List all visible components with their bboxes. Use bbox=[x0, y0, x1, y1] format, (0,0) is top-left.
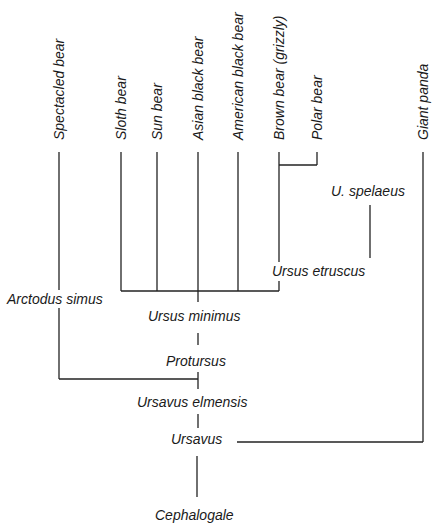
label-spectacled-bear: Spectacled bear bbox=[51, 39, 67, 140]
label-cephalogale: Cephalogale bbox=[155, 507, 234, 523]
label-giant-panda: Giant panda bbox=[415, 64, 431, 140]
label-protursus: Protursus bbox=[166, 353, 226, 369]
label-ursavus: Ursavus bbox=[171, 431, 222, 447]
label-ursavus-elmensis: Ursavus elmensis bbox=[137, 394, 247, 410]
label-sun-bear: Sun bear bbox=[149, 83, 165, 140]
label-arctodus-simus: Arctodus simus bbox=[7, 291, 103, 307]
phylogenetic-tree: Spectacled bear Sloth bear Sun bear Asia… bbox=[0, 0, 447, 526]
label-polar-bear: Polar bear bbox=[309, 75, 325, 140]
label-american-black-bear: American black bear bbox=[230, 12, 246, 140]
label-asian-black-bear: Asian black bear bbox=[190, 36, 206, 140]
label-sloth-bear: Sloth bear bbox=[113, 76, 129, 140]
tree-lines bbox=[0, 0, 447, 526]
label-brown-bear: Brown bear (grizzly) bbox=[271, 16, 287, 140]
label-ursus-etruscus: Ursus etruscus bbox=[272, 263, 365, 279]
label-u-spelaeus: U. spelaeus bbox=[331, 183, 405, 199]
label-ursus-minimus: Ursus minimus bbox=[148, 308, 241, 324]
